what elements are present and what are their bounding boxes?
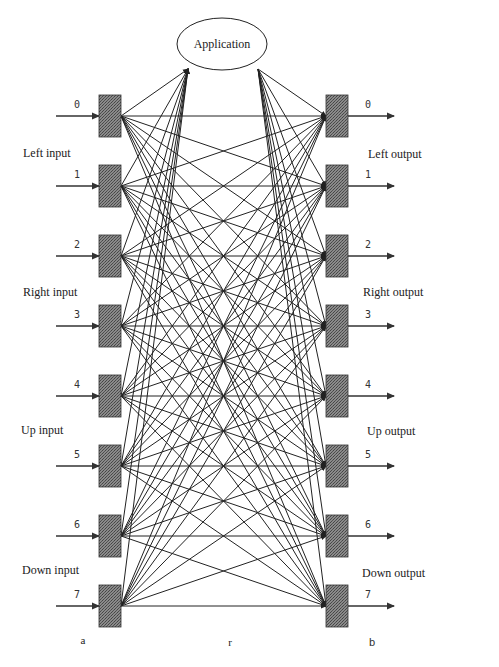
input-port-6: 6 bbox=[56, 515, 121, 557]
output-buffer-box bbox=[326, 585, 348, 627]
output-group-labels: Left output Right output Up output Down … bbox=[362, 147, 426, 580]
output-port-index: 6 bbox=[365, 519, 371, 530]
input-ports: 01234567 bbox=[56, 95, 121, 627]
input-port-index: 6 bbox=[74, 519, 80, 530]
column-label-router: r bbox=[228, 636, 232, 648]
output-buffer-box bbox=[326, 515, 348, 557]
column-label-output: b bbox=[369, 636, 376, 649]
output-port-2: 2 bbox=[326, 235, 394, 277]
output-port-index: 2 bbox=[365, 239, 371, 250]
connection-edges bbox=[121, 69, 326, 606]
input-port-2: 2 bbox=[56, 235, 121, 277]
output-port-index: 4 bbox=[365, 379, 371, 390]
output-buffer-box bbox=[326, 235, 348, 277]
input-port-index: 5 bbox=[74, 449, 80, 460]
input-buffer-box bbox=[99, 165, 121, 207]
input-group-label-up: Up input bbox=[21, 423, 64, 437]
input-port-index: 3 bbox=[74, 309, 80, 320]
input-buffer-box bbox=[99, 305, 121, 347]
input-group-label-right: Right input bbox=[23, 285, 78, 299]
input-port-index: 2 bbox=[74, 239, 80, 250]
output-port-4: 4 bbox=[326, 375, 394, 417]
output-group-label-up: Up output bbox=[367, 424, 416, 438]
output-port-index: 0 bbox=[365, 99, 371, 110]
application-label: Application bbox=[194, 37, 251, 51]
crossbar-diagram: Application 01234567 01234567 Left input… bbox=[0, 0, 499, 667]
output-buffer-box bbox=[326, 305, 348, 347]
output-port-3: 3 bbox=[326, 305, 394, 347]
input-buffer-box bbox=[99, 235, 121, 277]
output-port-6: 6 bbox=[326, 515, 394, 557]
connection-edge bbox=[121, 69, 188, 256]
output-buffer-box bbox=[326, 165, 348, 207]
input-port-0: 0 bbox=[56, 95, 121, 137]
output-port-index: 3 bbox=[365, 309, 371, 320]
input-buffer-box bbox=[99, 515, 121, 557]
input-port-index: 7 bbox=[74, 589, 80, 600]
output-port-index: 5 bbox=[365, 449, 371, 460]
input-buffer-box bbox=[99, 95, 121, 137]
output-group-label-left: Left output bbox=[368, 147, 422, 161]
output-port-5: 5 bbox=[326, 445, 394, 487]
input-port-index: 1 bbox=[74, 169, 80, 180]
output-buffer-box bbox=[326, 95, 348, 137]
input-port-3: 3 bbox=[56, 305, 121, 347]
application-node: Application bbox=[177, 18, 267, 70]
input-group-label-left: Left input bbox=[23, 146, 71, 160]
output-port-1: 1 bbox=[326, 165, 394, 207]
input-buffer-box bbox=[99, 445, 121, 487]
input-port-5: 5 bbox=[56, 445, 121, 487]
column-label-input: a bbox=[81, 634, 86, 646]
input-port-index: 0 bbox=[74, 99, 80, 110]
input-port-1: 1 bbox=[56, 165, 121, 207]
input-port-7: 7 bbox=[56, 585, 121, 627]
input-group-label-down: Down input bbox=[22, 563, 80, 577]
output-ports: 01234567 bbox=[326, 95, 394, 627]
output-port-7: 7 bbox=[326, 585, 394, 627]
output-port-index: 1 bbox=[365, 169, 371, 180]
output-port-index: 7 bbox=[365, 589, 371, 600]
output-group-label-right: Right output bbox=[363, 285, 424, 299]
input-buffer-box bbox=[99, 375, 121, 417]
input-port-index: 4 bbox=[74, 379, 80, 390]
output-group-label-down: Down output bbox=[362, 566, 426, 580]
output-port-0: 0 bbox=[326, 95, 394, 137]
input-port-4: 4 bbox=[56, 375, 121, 417]
output-buffer-box bbox=[326, 445, 348, 487]
input-group-labels: Left input Right input Up input Down inp… bbox=[21, 146, 80, 577]
output-buffer-box bbox=[326, 375, 348, 417]
input-buffer-box bbox=[99, 585, 121, 627]
